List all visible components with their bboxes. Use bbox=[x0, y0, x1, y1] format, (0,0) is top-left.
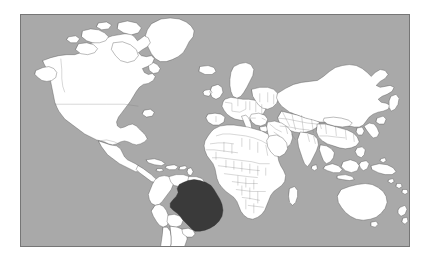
figure-root bbox=[0, 0, 428, 263]
region-europe bbox=[199, 63, 279, 132]
japan-north bbox=[376, 116, 386, 124]
island-small-arctic-a bbox=[67, 36, 80, 43]
cuba bbox=[146, 159, 165, 166]
tasmania bbox=[371, 221, 378, 227]
country-greenland bbox=[145, 18, 194, 74]
indonesia-java bbox=[337, 175, 354, 181]
country-sri-lanka bbox=[312, 165, 318, 171]
region-oceania bbox=[323, 147, 408, 227]
country-australia bbox=[337, 184, 387, 221]
country-canada bbox=[43, 34, 155, 145]
country-mexico bbox=[99, 141, 142, 172]
southeast-asia bbox=[319, 145, 334, 164]
region-asia bbox=[267, 65, 399, 171]
madagascar bbox=[289, 187, 298, 206]
iceland bbox=[199, 66, 216, 75]
world-map-frame bbox=[20, 14, 410, 247]
jamaica bbox=[156, 169, 163, 172]
country-chile bbox=[159, 227, 171, 246]
canadian-arctic-islands bbox=[82, 29, 109, 43]
indonesia-sulawesi bbox=[359, 161, 369, 171]
british-isles bbox=[203, 84, 223, 99]
island-small-arctic-b bbox=[97, 22, 112, 30]
indonesia-borneo bbox=[341, 160, 359, 173]
scandinavia bbox=[230, 63, 254, 99]
pacific-island-d bbox=[380, 158, 386, 163]
newfoundland bbox=[142, 109, 154, 117]
country-india bbox=[298, 132, 319, 167]
central-america bbox=[136, 166, 157, 183]
pacific-island-b bbox=[396, 184, 402, 189]
lesser-antilles bbox=[187, 168, 193, 176]
region-south-america bbox=[148, 175, 223, 246]
puerto-rico bbox=[179, 166, 187, 170]
new-guinea bbox=[371, 164, 396, 175]
pacific-island-a bbox=[388, 179, 394, 184]
philippines bbox=[355, 147, 365, 158]
region-greenland bbox=[145, 18, 194, 74]
new-zealand bbox=[398, 205, 408, 224]
iberian-peninsula bbox=[206, 113, 225, 125]
pacific-island-c bbox=[402, 189, 408, 194]
country-peru bbox=[151, 204, 169, 227]
ellesmere-island bbox=[118, 21, 142, 35]
hispaniola bbox=[165, 165, 178, 170]
kamchatka bbox=[389, 94, 399, 111]
indonesia-sumatra bbox=[323, 164, 342, 173]
world-map-svg bbox=[21, 15, 409, 246]
country-alaska bbox=[35, 67, 57, 82]
